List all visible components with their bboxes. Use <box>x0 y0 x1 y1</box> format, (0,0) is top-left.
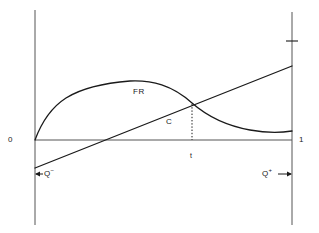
axis-label-origin: 0 <box>8 136 13 144</box>
label-q-minus-superscript: − <box>50 167 54 173</box>
fr-curve <box>35 81 292 140</box>
curve-label-fr: FR <box>133 88 145 96</box>
cost-line <box>35 66 292 168</box>
axis-label-right-end: 1 <box>299 136 304 144</box>
label-q-minus: Q− <box>44 170 54 178</box>
q-minus-arrow <box>35 172 43 177</box>
line-label-c: C <box>166 118 172 126</box>
axis-label-threshold: t <box>190 152 192 159</box>
label-q-plus: Q+ <box>262 170 272 178</box>
label-q-plus-superscript: + <box>268 167 272 173</box>
figure-container: 0 1 FR C t Q− Q+ <box>0 0 319 233</box>
plot-canvas <box>0 0 319 233</box>
q-plus-arrow <box>278 172 292 177</box>
